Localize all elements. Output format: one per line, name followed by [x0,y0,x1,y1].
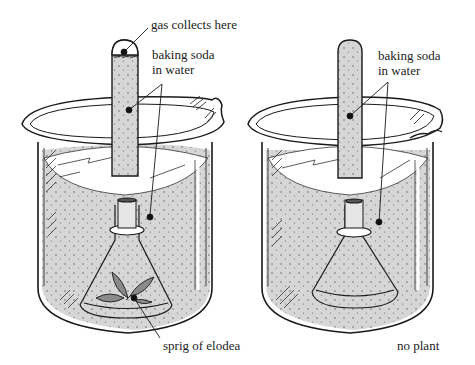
gas-collects-label: gas collects here [151,17,237,32]
left-solution-label-line2: in water [152,62,194,77]
right-solution-label-line1: baking soda [378,48,440,63]
elodea-label: sprig of elodea [163,338,240,353]
left-test-tube [112,40,138,176]
right-solution-label-line2: in water [378,63,420,78]
no-plant-label: no plant [397,338,439,353]
left-solution-label-line1: baking soda [152,47,214,62]
